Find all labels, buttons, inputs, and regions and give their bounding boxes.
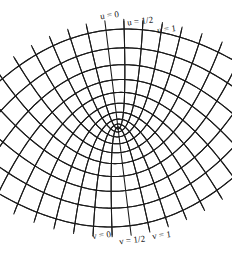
coordinate-grid-svg xyxy=(0,0,232,254)
parabolic-grid-figure: u = 0 u = 1/2 u = 1 v = 0 v = 1/2 v = 1 xyxy=(0,0,232,254)
figure-background xyxy=(0,0,232,254)
